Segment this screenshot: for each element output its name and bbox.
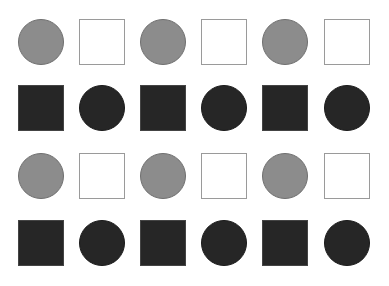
dark-circle-shape [79,85,125,131]
dark-square-shape [140,85,186,131]
gray-circle-shape [18,153,64,199]
white-square-shape [324,19,370,65]
dark-square-shape [140,220,186,266]
gray-circle-shape [140,19,186,65]
white-square-shape [79,19,125,65]
dark-circle-shape [324,85,370,131]
dark-circle-shape [324,220,370,266]
dark-circle-shape [201,85,247,131]
dark-square-shape [262,220,308,266]
dark-circle-shape [79,220,125,266]
dark-square-shape [262,85,308,131]
dark-square-shape [18,220,64,266]
gray-circle-shape [262,19,308,65]
dark-square-shape [18,85,64,131]
gray-circle-shape [18,19,64,65]
white-square-shape [79,153,125,199]
white-square-shape [201,153,247,199]
white-square-shape [201,19,247,65]
gray-circle-shape [262,153,308,199]
dark-circle-shape [201,220,247,266]
gray-circle-shape [140,153,186,199]
white-square-shape [324,153,370,199]
